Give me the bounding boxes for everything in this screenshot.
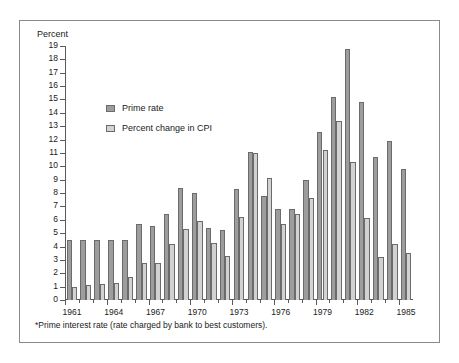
y-axis-tick-label: 7 bbox=[38, 200, 58, 210]
bar-group bbox=[162, 46, 176, 300]
x-axis-minor-tick bbox=[107, 300, 108, 303]
y-axis-tick-label: 15 bbox=[38, 93, 58, 103]
bar-cpi-change bbox=[378, 257, 383, 300]
y-axis-tick-label: 19 bbox=[38, 40, 58, 50]
x-axis-tick-label: 1961 bbox=[62, 307, 81, 317]
bar-group bbox=[357, 46, 371, 300]
y-axis-tick-label: 0 bbox=[38, 294, 58, 304]
bar-group bbox=[190, 46, 204, 300]
bar-cpi-change bbox=[295, 214, 300, 300]
y-axis-tick-label: 10 bbox=[38, 160, 58, 170]
bar-group bbox=[302, 46, 316, 300]
x-axis-minor-tick bbox=[371, 300, 372, 303]
bar-cpi-change bbox=[183, 229, 188, 300]
bar-cpi-change bbox=[336, 121, 341, 300]
x-axis-tick-label: 1979 bbox=[313, 307, 332, 317]
bar-cpi-change bbox=[281, 224, 286, 300]
y-axis-tick-label: 9 bbox=[38, 174, 58, 184]
bar-cpi-change bbox=[364, 218, 369, 300]
y-axis-tick-label: 13 bbox=[38, 120, 58, 130]
x-axis-minor-tick bbox=[329, 300, 330, 303]
x-axis-minor-tick bbox=[274, 300, 275, 303]
bar-group bbox=[218, 46, 232, 300]
x-axis-tick-label: 1985 bbox=[397, 307, 416, 317]
x-axis-minor-tick bbox=[79, 300, 80, 303]
y-axis-tick-label: 3 bbox=[38, 254, 58, 264]
x-axis-tick-label: 1982 bbox=[355, 307, 374, 317]
x-axis-tick-label: 1973 bbox=[230, 307, 249, 317]
bar-cpi-change bbox=[309, 198, 314, 300]
x-axis-minor-tick bbox=[149, 300, 150, 303]
bar-group bbox=[135, 46, 149, 300]
bar-group bbox=[316, 46, 330, 300]
x-axis-minor-tick bbox=[218, 300, 219, 303]
bar-cpi-change bbox=[239, 217, 244, 300]
x-axis-minor-tick bbox=[232, 300, 233, 303]
bar-cpi-change bbox=[128, 277, 133, 300]
chart-figure: Percent Prime ratePercent change in CPI … bbox=[19, 20, 440, 343]
x-axis-minor-tick bbox=[385, 300, 386, 303]
bar-group bbox=[232, 46, 246, 300]
y-axis-tick-label: 14 bbox=[38, 107, 58, 117]
y-axis-tick-label: 1 bbox=[38, 281, 58, 291]
bar-group bbox=[260, 46, 274, 300]
x-axis-minor-tick bbox=[121, 300, 122, 303]
x-axis-minor-tick bbox=[399, 300, 400, 303]
bar-cpi-change bbox=[225, 256, 230, 300]
x-axis-tick-label: 1970 bbox=[188, 307, 207, 317]
x-axis-minor-tick bbox=[246, 300, 247, 303]
bar-group bbox=[149, 46, 163, 300]
chart-footnote: *Prime interest rate (rate charged by ba… bbox=[35, 320, 267, 330]
y-axis-tick-label: 5 bbox=[38, 227, 58, 237]
bar-group bbox=[385, 46, 399, 300]
bar-cpi-change bbox=[169, 244, 174, 300]
y-axis-tick-label: 18 bbox=[38, 53, 58, 63]
bar-group bbox=[343, 46, 357, 300]
y-axis-tick-label: 2 bbox=[38, 267, 58, 277]
bar-cpi-change bbox=[350, 162, 355, 300]
bar-series-container bbox=[65, 46, 413, 300]
bar-group bbox=[107, 46, 121, 300]
bar-group bbox=[288, 46, 302, 300]
x-axis-minor-tick bbox=[316, 300, 317, 303]
y-axis-tick-label: 4 bbox=[38, 241, 58, 251]
x-axis-minor-tick bbox=[162, 300, 163, 303]
x-axis-minor-tick bbox=[135, 300, 136, 303]
bar-group bbox=[93, 46, 107, 300]
bar-cpi-change bbox=[392, 244, 397, 300]
bar-group bbox=[121, 46, 135, 300]
bar-cpi-change bbox=[211, 243, 216, 300]
x-axis-minor-tick bbox=[190, 300, 191, 303]
bar-group bbox=[176, 46, 190, 300]
bar-group bbox=[79, 46, 93, 300]
x-axis-minor-tick bbox=[302, 300, 303, 303]
x-axis-tick-label: 1976 bbox=[271, 307, 290, 317]
x-axis-minor-tick bbox=[176, 300, 177, 303]
y-axis-tick-label: 6 bbox=[38, 214, 58, 224]
bar-cpi-change bbox=[197, 221, 202, 300]
x-axis-minor-tick bbox=[204, 300, 205, 303]
bar-cpi-change bbox=[142, 263, 147, 300]
x-axis-minor-tick bbox=[343, 300, 344, 303]
x-axis-tick-label: 1967 bbox=[146, 307, 165, 317]
x-axis-tick-label: 1964 bbox=[104, 307, 123, 317]
x-axis-minor-tick bbox=[93, 300, 94, 303]
bar-cpi-change bbox=[406, 253, 411, 300]
bar-group bbox=[371, 46, 385, 300]
y-axis-title: Percent bbox=[37, 29, 68, 39]
bar-cpi-change bbox=[267, 178, 272, 300]
x-axis-minor-tick bbox=[357, 300, 358, 303]
bar-cpi-change bbox=[155, 263, 160, 300]
bar-group bbox=[329, 46, 343, 300]
bar-cpi-change bbox=[114, 283, 119, 300]
x-axis-minor-tick bbox=[288, 300, 289, 303]
bar-cpi-change bbox=[323, 150, 328, 300]
bar-cpi-change bbox=[253, 153, 258, 300]
y-axis-tick-label: 16 bbox=[38, 80, 58, 90]
bar-group bbox=[274, 46, 288, 300]
bar-cpi-change bbox=[86, 285, 91, 300]
x-axis-minor-tick bbox=[260, 300, 261, 303]
bar-group bbox=[246, 46, 260, 300]
bar-group bbox=[65, 46, 79, 300]
y-axis-tick-label: 8 bbox=[38, 187, 58, 197]
